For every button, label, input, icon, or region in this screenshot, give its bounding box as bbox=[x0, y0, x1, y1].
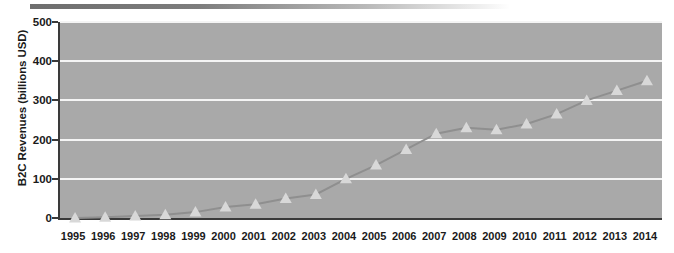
x-tick-label: 2014 bbox=[625, 230, 665, 242]
line-chart: B2C Revenues (billions USD) 010020030040… bbox=[0, 0, 674, 253]
data-point-marker bbox=[370, 159, 382, 170]
y-tick-label: 100 bbox=[6, 173, 52, 185]
data-point-marker bbox=[551, 108, 563, 119]
data-point-marker bbox=[641, 75, 653, 86]
series-line bbox=[75, 81, 647, 218]
data-point-marker bbox=[400, 143, 412, 154]
plot-area bbox=[58, 22, 662, 220]
x-axis-labels: 1995199619971998199920002001200220032004… bbox=[58, 230, 660, 248]
data-point-marker bbox=[460, 122, 472, 133]
y-tick-label: 200 bbox=[6, 134, 52, 146]
y-tick-label: 300 bbox=[6, 94, 52, 106]
y-axis-ticks: 0100200300400500 bbox=[0, 22, 52, 218]
y-tick-label: 500 bbox=[6, 16, 52, 28]
y-tick-label: 0 bbox=[6, 212, 52, 224]
series-b2c-revenues bbox=[60, 22, 662, 218]
data-point-marker bbox=[340, 173, 352, 184]
y-tick-label: 400 bbox=[6, 55, 52, 67]
data-point-marker bbox=[310, 188, 322, 199]
